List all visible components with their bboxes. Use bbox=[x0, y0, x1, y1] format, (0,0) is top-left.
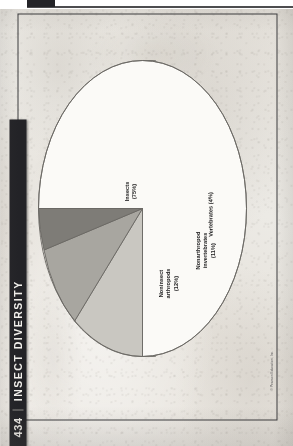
scanned-page-image: 434 Insect Diversity bbox=[0, 0, 293, 446]
scan-top-header-tab-edge bbox=[27, 0, 55, 7]
scan-top-page-edge bbox=[27, 6, 293, 8]
pie-label-vertebrates: Vertebrates (4%) bbox=[207, 191, 215, 237]
rotated-page-container: 434 Insect Diversity bbox=[0, 0, 293, 446]
pie-label-insects: Insects (75%) bbox=[123, 164, 138, 218]
pie-chart: Insects (75%) Noninsect arthropods (12%)… bbox=[31, 48, 253, 368]
pie-chart-svg bbox=[31, 48, 253, 368]
pie-label-noninsect-arthropods: Noninsect arthropods (12%) bbox=[157, 254, 179, 312]
figure-credit-line: © Pearson Education, Inc. bbox=[269, 350, 273, 390]
figure-area: Insects (75%) Noninsect arthropods (12%)… bbox=[17, 13, 277, 420]
